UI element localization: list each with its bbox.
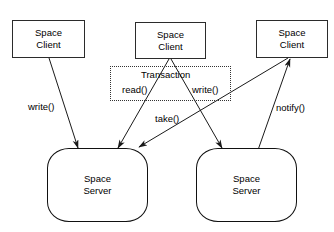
- edge-label-write-client1: write(): [28, 101, 54, 112]
- client-2-line-2: Client: [158, 41, 182, 53]
- edge-label-notify-server2: notify(): [276, 102, 305, 113]
- node-space-server-1[interactable]: Space Server: [47, 148, 148, 222]
- transaction-title: Transaction: [141, 69, 190, 80]
- transaction-operation-write: write(): [192, 84, 218, 95]
- server-1-line-1: Space: [84, 173, 111, 185]
- node-space-client-2[interactable]: Space Client: [135, 22, 206, 59]
- client-3-line-2: Client: [280, 39, 304, 51]
- node-space-client-1[interactable]: Space Client: [12, 20, 85, 58]
- client-3-line-1: Space: [279, 27, 306, 39]
- server-1-line-2: Server: [84, 185, 112, 197]
- transaction-operation-read: read(): [122, 84, 147, 95]
- server-2-line-2: Server: [233, 185, 261, 197]
- client-1-line-2: Client: [36, 39, 60, 51]
- server-2-line-1: Space: [233, 173, 260, 185]
- node-space-client-3[interactable]: Space Client: [256, 20, 328, 58]
- client-1-line-1: Space: [35, 27, 62, 39]
- client-2-line-1: Space: [157, 29, 184, 41]
- diagram-canvas: Space Client Space Client Space Client T…: [0, 0, 334, 232]
- node-space-server-2[interactable]: Space Server: [196, 148, 297, 222]
- edge-label-take-client3: take(): [155, 113, 179, 124]
